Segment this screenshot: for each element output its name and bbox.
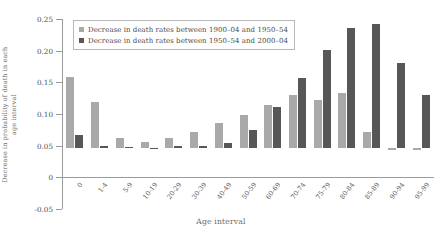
bar[interactable] [165, 138, 173, 149]
x-axis-title: Age interval [0, 217, 442, 226]
bar[interactable] [397, 63, 405, 149]
legend-swatch-icon [79, 38, 84, 43]
y-axis-tick: -0.05 [56, 209, 62, 210]
bar[interactable] [141, 142, 149, 148]
legend-item[interactable]: Decrease in death rates between 1950–54 … [79, 35, 288, 46]
legend-label: Decrease in death rates between 1950–54 … [88, 37, 288, 45]
bar[interactable] [323, 50, 331, 148]
bar[interactable] [372, 24, 380, 149]
bar[interactable] [338, 93, 346, 148]
legend: Decrease in death rates between 1900–04 … [73, 20, 295, 50]
legend-label: Decrease in death rates between 1900–04 … [88, 26, 288, 34]
y-axis-tick: 0.25 [56, 19, 62, 20]
bar[interactable] [273, 107, 281, 149]
y-axis-tick-label: 0.05 [37, 141, 53, 150]
y-axis-tick-label: 0.25 [37, 15, 53, 24]
bar[interactable] [150, 148, 158, 149]
y-axis-title: Decrease in probability of death in each… [1, 45, 18, 185]
y-axis-tick-label: 0.10 [37, 110, 53, 119]
y-axis-tick: 0.15 [56, 82, 62, 83]
y-axis-tick: 0.20 [56, 51, 62, 52]
legend-swatch-icon [79, 27, 84, 32]
y-axis-title-wrap: Decrease in probability of death in each… [0, 46, 20, 186]
bar[interactable] [100, 146, 108, 148]
bar[interactable] [66, 77, 74, 148]
bar[interactable] [314, 100, 322, 149]
bar[interactable] [298, 78, 306, 148]
bar[interactable] [264, 105, 272, 148]
y-axis-tick-label: 0 [48, 173, 53, 182]
bar[interactable] [240, 115, 248, 148]
y-axis-tick: 0.05 [56, 146, 62, 147]
bar[interactable] [249, 130, 257, 148]
bar[interactable] [174, 146, 182, 148]
bar[interactable] [75, 135, 83, 148]
y-axis-tick-label: 0.20 [37, 46, 53, 55]
bar[interactable] [199, 146, 207, 149]
y-axis-tick: 0.10 [56, 114, 62, 115]
y-axis-tick: 0 [56, 177, 62, 178]
bar[interactable] [422, 95, 430, 149]
y-axis-tick-label: -0.05 [35, 205, 53, 214]
bar[interactable] [388, 148, 396, 149]
bar[interactable] [215, 123, 223, 148]
bar[interactable] [289, 95, 297, 149]
bar-chart: Decrease in probability of death in each… [0, 0, 442, 238]
bar[interactable] [125, 147, 133, 148]
bar[interactable] [413, 148, 421, 150]
bar[interactable] [224, 143, 232, 149]
bar[interactable] [91, 102, 99, 148]
bar[interactable] [116, 138, 124, 149]
bar[interactable] [190, 132, 198, 148]
y-axis-tick-label: 0.15 [37, 78, 53, 87]
legend-item[interactable]: Decrease in death rates between 1900–04 … [79, 24, 288, 35]
bar[interactable] [363, 132, 371, 148]
bar[interactable] [347, 28, 355, 148]
